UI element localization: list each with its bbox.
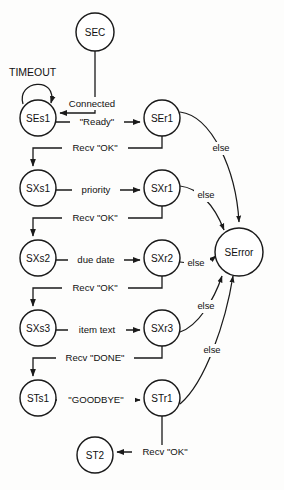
state-label-sxr3: SXr3 — [151, 323, 174, 334]
state-node-serror[interactable]: SError — [215, 228, 263, 276]
edge-label-timeout: TIMEOUT — [9, 66, 57, 78]
edge-label-recv-done: Recv "DONE" — [65, 352, 124, 363]
state-label-sxr1: SXr1 — [151, 183, 174, 194]
state-label-st2: ST2 — [86, 450, 105, 461]
edge-label-recv-ok-4: Recv "OK" — [142, 446, 187, 457]
edge-else-1 — [180, 112, 239, 222]
state-machine-diagram: Connected TIMEOUT "Ready" Recv "OK" prio… — [0, 0, 284, 490]
edge-label-recv-ok-2: Recv "OK" — [72, 212, 117, 223]
state-node-sts1[interactable]: STs1 — [20, 380, 56, 416]
edge-label-ready: "Ready" — [80, 116, 115, 127]
edge-label-priority: priority — [82, 184, 111, 195]
state-node-sxs1[interactable]: SXs1 — [20, 170, 56, 206]
state-label-sec: SEC — [85, 27, 106, 38]
state-label-sts1: STs1 — [27, 393, 50, 404]
state-label-ses1: SEs1 — [26, 113, 50, 124]
state-node-sxr3[interactable]: SXr3 — [144, 310, 180, 346]
edge-label-recv-ok-1: Recv "OK" — [72, 142, 117, 153]
edge-label-else-4: else — [197, 300, 214, 311]
state-node-sxs2[interactable]: SXs2 — [20, 240, 56, 276]
state-node-ser1[interactable]: SEr1 — [144, 100, 180, 136]
state-node-st2[interactable]: ST2 — [77, 437, 113, 473]
state-label-serror: SError — [225, 247, 255, 258]
state-node-ses1[interactable]: SEs1 — [20, 100, 56, 136]
edge-label-else-1: else — [212, 142, 229, 153]
state-machine-canvas: Connected TIMEOUT "Ready" Recv "OK" prio… — [0, 0, 284, 490]
state-label-ser1: SEr1 — [151, 113, 174, 124]
edge-else-5 — [180, 276, 233, 404]
edge-label-else-2: else — [197, 189, 214, 200]
edge-label-else-3: else — [187, 257, 204, 268]
state-label-sxr2: SXr2 — [151, 253, 174, 264]
edge-label-due-date: due date — [77, 254, 114, 265]
state-label-sxs1: SXs1 — [26, 183, 50, 194]
state-label-str1: STr1 — [151, 393, 173, 404]
state-node-sxr1[interactable]: SXr1 — [144, 170, 180, 206]
state-label-sxs2: SXs2 — [26, 253, 50, 264]
edge-label-item-text: item text — [79, 324, 116, 335]
states-group: SEC SEs1 SEr1 SXs1 SXr1 SXs2 — [20, 13, 263, 473]
edge-label-connected: Connected — [69, 98, 115, 109]
edge-label-goodbye: "GOODBYE" — [68, 394, 123, 405]
state-node-sxs3[interactable]: SXs3 — [20, 310, 56, 346]
edge-label-else-5: else — [203, 344, 220, 355]
state-label-sxs3: SXs3 — [26, 323, 50, 334]
state-node-sec[interactable]: SEC — [76, 13, 114, 51]
state-node-sxr2[interactable]: SXr2 — [144, 240, 180, 276]
state-node-str1[interactable]: STr1 — [144, 380, 180, 416]
edge-label-recv-ok-3: Recv "OK" — [72, 282, 117, 293]
